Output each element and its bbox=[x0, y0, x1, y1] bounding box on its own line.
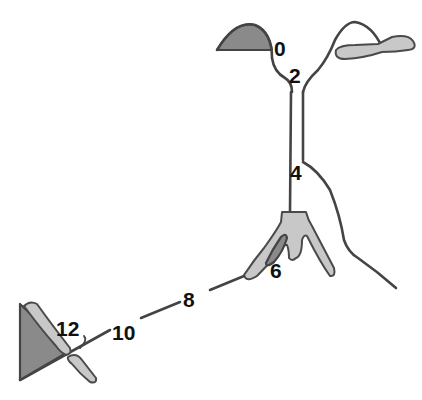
right-root-line bbox=[303, 162, 396, 288]
label-stage-0: 0 bbox=[274, 37, 286, 60]
label-stage-2: 2 bbox=[289, 64, 301, 87]
label-stage-6: 6 bbox=[270, 259, 282, 282]
bottom-leaf-tip bbox=[68, 355, 96, 382]
label-stage-8: 8 bbox=[183, 288, 195, 311]
label-stage-4: 4 bbox=[290, 161, 302, 184]
stem-left bbox=[290, 92, 291, 212]
right-leaf bbox=[336, 36, 415, 59]
root-base bbox=[244, 212, 335, 279]
label-stage-10: 10 bbox=[112, 321, 135, 344]
seedling-diagram: 0 2 4 6 8 10 12 bbox=[0, 0, 422, 400]
timeline-line-upper bbox=[210, 276, 244, 290]
curl-mark bbox=[80, 336, 85, 348]
diagram-canvas: 0 2 4 6 8 10 12 bbox=[0, 0, 422, 400]
timeline-line-mid bbox=[141, 302, 180, 318]
label-stage-12: 12 bbox=[56, 317, 79, 340]
